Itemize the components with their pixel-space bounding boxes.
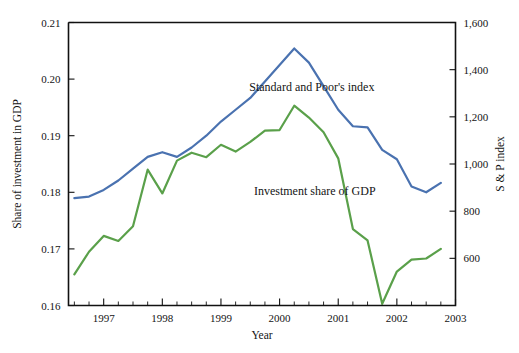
x-tick-label: 2001	[327, 312, 349, 324]
y-tick-label: 0.16	[41, 300, 61, 312]
y-axis-title: Share of investment in GDP	[11, 99, 23, 229]
y2-tick-label: 1,400	[464, 64, 489, 76]
y-tick-label: 0.17	[41, 243, 61, 255]
y-tick-label: 0.19	[41, 130, 61, 142]
y2-tick-label: 1,000	[464, 158, 489, 170]
x-tick-label: 2002	[386, 312, 408, 324]
y-tick-label: 0.21	[41, 17, 60, 29]
x-tick-label: 1999	[210, 312, 233, 324]
chart-svg: 0.160.170.180.190.200.21 6008001,0001,20…	[0, 0, 519, 353]
y2-tick-label: 1,200	[464, 111, 489, 123]
x-axis-title: Year	[251, 329, 272, 341]
x-tick-label: 1997	[93, 312, 116, 324]
chart-background	[0, 0, 519, 353]
x-tick-label: 2003	[445, 312, 468, 324]
series-annotation: Investment share of GDP	[254, 184, 376, 198]
y2-axis-title: S & P index	[494, 136, 506, 192]
y-tick-label: 0.18	[41, 186, 61, 198]
x-tick-label: 2000	[269, 312, 292, 324]
y2-tick-label: 1,600	[464, 17, 489, 29]
y2-tick-label: 800	[464, 205, 481, 217]
series-annotation: Standard and Poor's index	[249, 80, 374, 94]
y-tick-label: 0.20	[41, 73, 61, 85]
y2-tick-label: 600	[464, 252, 481, 264]
x-tick-label: 1998	[151, 312, 174, 324]
chart-figure: 0.160.170.180.190.200.21 6008001,0001,20…	[0, 0, 519, 353]
